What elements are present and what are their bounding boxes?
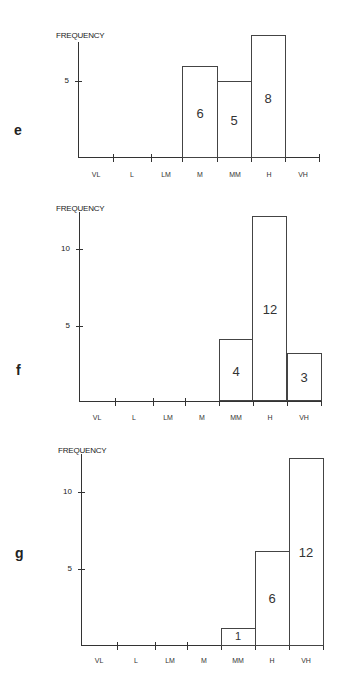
category-label: L (119, 657, 153, 664)
category-label: H (255, 657, 289, 664)
bar-value: 12 (289, 545, 323, 560)
y-tick (78, 569, 85, 570)
y-tick (78, 492, 85, 493)
y-tick-label: 5 (52, 564, 72, 573)
bar-value: 6 (255, 591, 289, 606)
y-tick-label: 10 (52, 487, 72, 496)
x-tick (117, 642, 118, 650)
panel-letter: g (15, 545, 24, 561)
bar-value: 1 (221, 630, 255, 642)
category-label: VL (82, 657, 116, 664)
category-label: VH (289, 657, 323, 664)
category-label: M (187, 657, 221, 664)
y-axis-label: FREQUENCY (58, 446, 106, 455)
chart-panel-g: g FREQUENCY 10 5 1 6 12 VL L LM M MM H V… (0, 0, 344, 682)
x-tick (155, 642, 156, 650)
category-label: LM (153, 657, 187, 664)
y-axis (81, 454, 82, 646)
x-tick (187, 642, 188, 650)
category-label: MM (221, 657, 255, 664)
